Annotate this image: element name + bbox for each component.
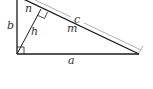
label-b: b [7, 19, 14, 32]
label-a: a [68, 54, 75, 67]
label-m: m [67, 22, 77, 35]
label-n: n [25, 2, 32, 15]
label-h: h [31, 25, 38, 38]
right-triangle-diagram: n b h c m a [0, 0, 153, 89]
dimension-line-c-upper [33, 0, 71, 17]
dimension-line-c-lower [84, 23, 141, 50]
